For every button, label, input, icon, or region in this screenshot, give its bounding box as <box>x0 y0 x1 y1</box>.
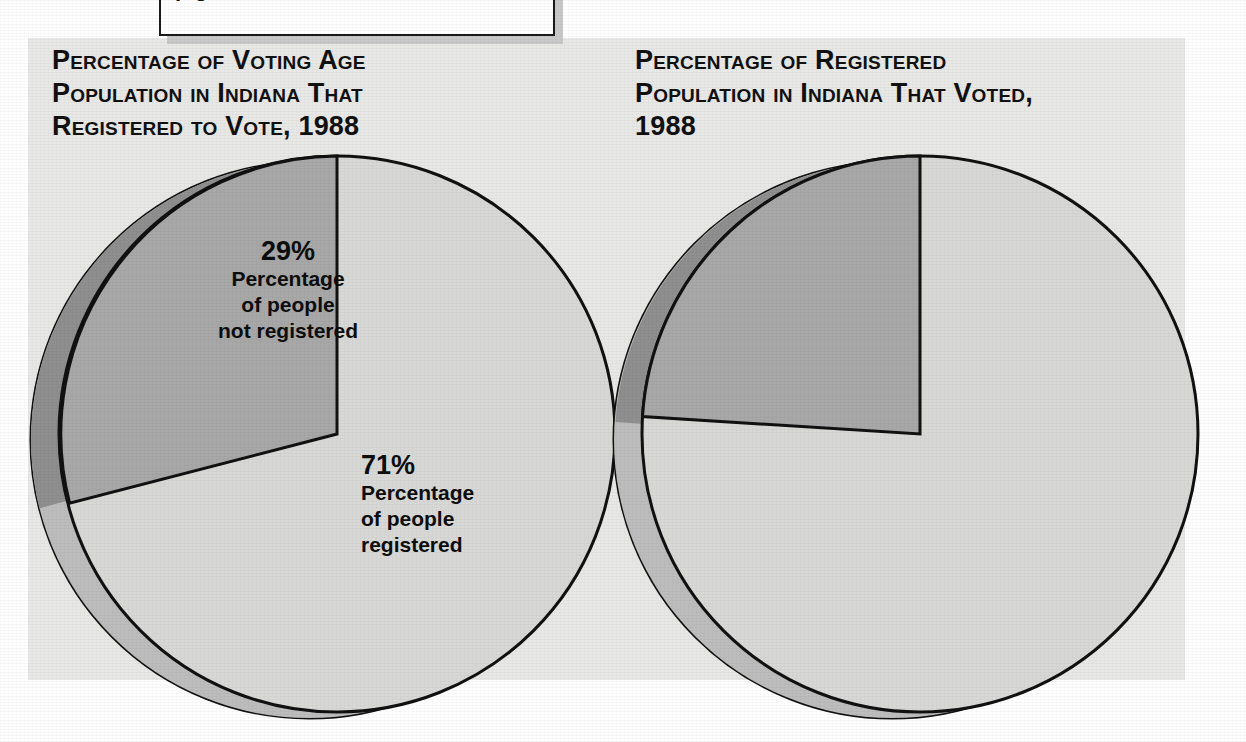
slice-desc-29-line2: of people <box>241 293 334 316</box>
slice-value-29: 29% <box>188 238 388 264</box>
pie-svg-registered <box>28 110 628 742</box>
pie-svg-voted <box>611 110 1211 742</box>
slice-desc-71-line1: Percentage <box>361 481 474 504</box>
slice-desc-71-line3: registered <box>361 533 463 556</box>
slice-desc-29-line3: not registered <box>218 319 358 342</box>
slice-desc-71-line2: of people <box>361 507 454 530</box>
slice-label-29: 29% Percentage of people not registered <box>188 238 388 344</box>
pie-chart-voted: Percentage of Registered Population in I… <box>611 0 1194 742</box>
slice-value-71: 71% <box>361 452 581 478</box>
pie-face-major-slice <box>643 156 921 434</box>
slice-desc-29-line1: Percentage <box>231 267 344 290</box>
slice-label-71: 71% Percentage of people registered <box>361 452 581 558</box>
pie-chart-registered: Percentage of Voting Age Population in I… <box>28 0 611 742</box>
